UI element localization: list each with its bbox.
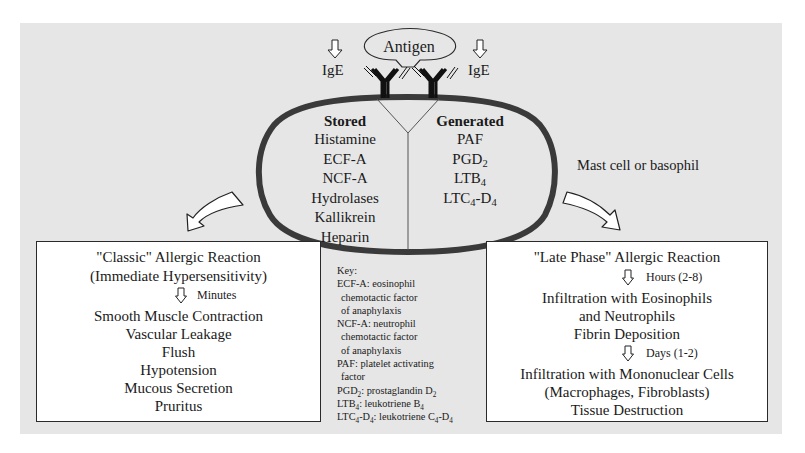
late-step1: Hours (2-8) — [487, 267, 767, 289]
stored-item: Histamine — [290, 130, 400, 150]
late-phase-reaction-box: "Late Phase" Allergic Reaction Hours (2-… — [486, 241, 768, 422]
down-arrow-ige-right — [473, 40, 487, 58]
down-arrow-icon — [175, 287, 187, 304]
late-step2-label: Days (1-2) — [646, 346, 698, 361]
key-entry: NCF-A: neutrophil — [337, 317, 487, 330]
down-arrow-icon — [622, 269, 634, 286]
curved-arrow-right — [563, 192, 620, 230]
ige-label-left: IgE — [322, 62, 344, 79]
abbreviation-key: Key: ECF-A: eosinophil chemotactic facto… — [337, 264, 487, 424]
key-entry: of anaphylaxis — [337, 344, 487, 357]
key-entry: LTB4: leukotriene B4 — [337, 397, 487, 410]
key-entry: chemotactic factor — [337, 291, 487, 304]
stored-column: Stored Histamine ECF-A NCF-A Hydrolases … — [290, 113, 400, 247]
late-effect: Tissue Destruction — [487, 401, 767, 419]
ige-label-right: IgE — [468, 62, 490, 79]
key-entry: ECF-A: eosinophil — [337, 277, 487, 290]
down-arrow-ige-left — [328, 40, 342, 58]
late-step2: Days (1-2) — [487, 343, 767, 365]
late-title: "Late Phase" Allergic Reaction — [487, 248, 767, 267]
curved-arrow-left — [187, 192, 243, 231]
late-effect: and Neutrophils — [487, 307, 767, 325]
generated-heading: Generated — [410, 113, 530, 130]
classic-title: "Classic" Allergic Reaction — [37, 248, 320, 267]
stored-item: NCF-A — [290, 169, 400, 189]
key-entry: PAF: platelet activating — [337, 357, 487, 370]
key-entry: PGD2: prostaglandin D2 — [337, 384, 487, 397]
generated-column: Generated PAF PGD2 LTB4 LTC4-D4 — [410, 113, 530, 208]
classic-effect: Pruritus — [37, 397, 320, 415]
late-step1-label: Hours (2-8) — [646, 270, 702, 285]
generated-item: LTB4 — [410, 169, 530, 189]
classic-time-label: Minutes — [197, 288, 236, 303]
key-entry: of anaphylaxis — [337, 304, 487, 317]
mast-cell-label: Mast cell or basophil — [577, 157, 699, 174]
classic-reaction-box: "Classic" Allergic Reaction (Immediate H… — [36, 241, 321, 422]
stored-item: ECF-A — [290, 150, 400, 170]
stored-item: Hydrolases — [290, 189, 400, 209]
key-entry: factor — [337, 370, 487, 383]
stored-item: Kallikrein — [290, 208, 400, 228]
classic-effect: Flush — [37, 343, 320, 361]
late-effect: Infiltration with Mononuclear Cells — [487, 365, 767, 383]
late-effect: Fibrin Deposition — [487, 325, 767, 343]
key-heading: Key: — [337, 264, 487, 277]
antigen-label: Antigen — [364, 38, 454, 56]
ige-antibody-right — [412, 66, 458, 98]
classic-subtitle: (Immediate Hypersensitivity) — [37, 267, 320, 286]
classic-effect: Vascular Leakage — [37, 325, 320, 343]
down-arrow-icon — [622, 345, 634, 362]
generated-item: PGD2 — [410, 150, 530, 170]
classic-effect: Mucous Secretion — [37, 379, 320, 397]
key-entry: LTC4-D4: leukotriene C4-D4 — [337, 410, 487, 423]
ige-antibody-left — [364, 66, 410, 98]
classic-time-step: Minutes — [37, 285, 320, 307]
key-entry: chemotactic factor — [337, 330, 487, 343]
late-effect: Infiltration with Eosinophils — [487, 289, 767, 307]
classic-effect: Smooth Muscle Contraction — [37, 307, 320, 325]
classic-effect: Hypotension — [37, 361, 320, 379]
generated-item: PAF — [410, 130, 530, 150]
stored-heading: Stored — [290, 113, 400, 130]
generated-item: LTC4-D4 — [410, 189, 530, 209]
late-effect: (Macrophages, Fibroblasts) — [487, 383, 767, 401]
